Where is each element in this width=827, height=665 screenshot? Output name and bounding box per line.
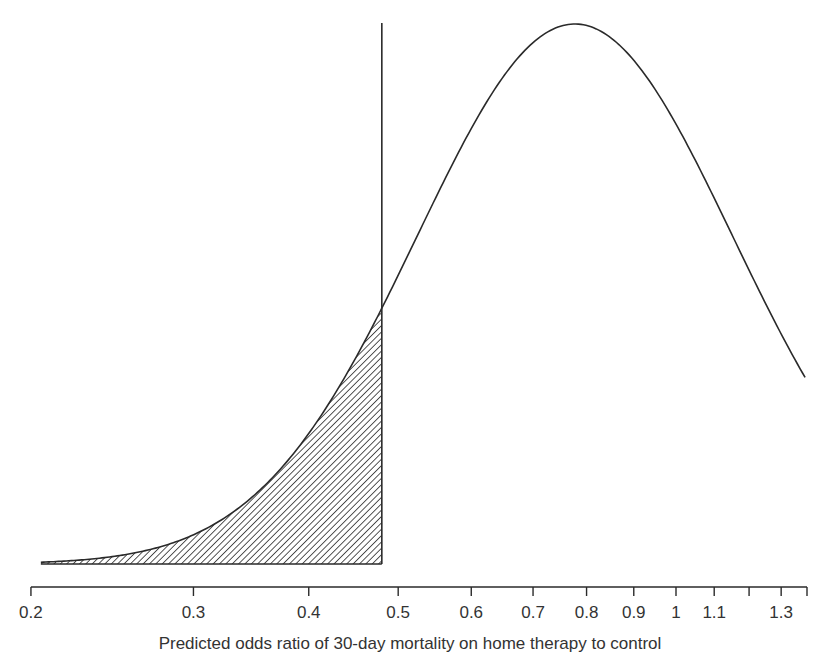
x-tick-label: 1.1 (702, 603, 726, 622)
x-tick-label: 0.5 (386, 603, 410, 622)
x-tick-label: 0.7 (521, 603, 545, 622)
x-tick-label: 0.3 (182, 603, 206, 622)
x-axis-ticks: 0.20.30.40.50.60.70.80.911.11.3 (19, 587, 807, 622)
x-axis: 0.20.30.40.50.60.70.80.911.11.3 Predicte… (19, 587, 807, 653)
density-curve (41, 24, 805, 562)
x-tick-label: 1 (671, 603, 680, 622)
x-axis-title: Predicted odds ratio of 30-day mortality… (159, 634, 662, 653)
x-tick-label: 0.6 (459, 603, 483, 622)
x-tick-label: 0.4 (297, 603, 321, 622)
plot-area (41, 23, 805, 564)
density-chart: 0.20.30.40.50.60.70.80.911.11.3 Predicte… (0, 0, 827, 665)
x-tick-label: 0.2 (19, 603, 43, 622)
x-tick-label: 0.8 (575, 603, 599, 622)
x-tick-label: 1.3 (769, 603, 793, 622)
x-tick-label: 0.9 (622, 603, 646, 622)
